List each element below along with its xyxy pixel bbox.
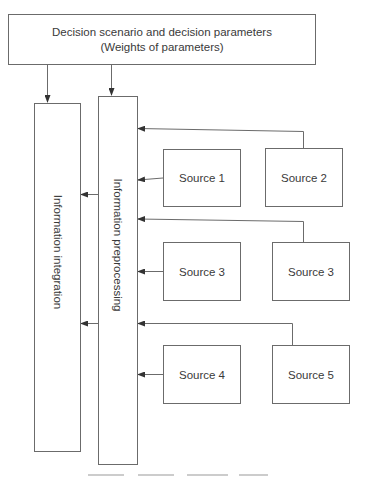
figure-caption-clipped <box>88 471 268 477</box>
source-5-box: Source 5 <box>272 345 350 404</box>
source-1-box: Source 1 <box>163 149 241 207</box>
decision-scenario-label: Decision scenario and decision parameter… <box>29 25 295 55</box>
information-integration-box: Information integration <box>34 103 81 452</box>
source-2-label: Source 2 <box>281 172 327 184</box>
information-integration-label: Information integration <box>52 195 64 309</box>
source-3a-box: Source 3 <box>163 242 241 301</box>
source-4-box: Source 4 <box>163 345 241 404</box>
source-3b-box: Source 3 <box>272 242 350 301</box>
source-3a-label: Source 3 <box>179 266 225 278</box>
source-1-label: Source 1 <box>179 172 225 184</box>
information-preprocessing-label: Information preprocessing <box>112 179 124 312</box>
source-4-label: Source 4 <box>179 369 225 381</box>
source-3b-label: Source 3 <box>288 266 334 278</box>
information-preprocessing-box: Information preprocessing <box>98 96 138 465</box>
source-2-box: Source 2 <box>265 148 343 207</box>
decision-scenario-box: Decision scenario and decision parameter… <box>8 14 316 65</box>
source-5-label: Source 5 <box>288 369 334 381</box>
